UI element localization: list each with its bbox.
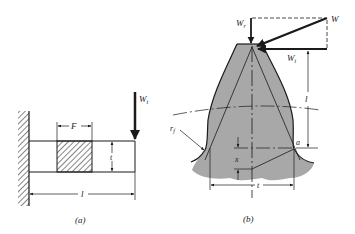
label-l-b: l [305,94,308,104]
caption-a: (a) [75,215,86,225]
rf-leader [180,130,204,150]
label-rf: rf [170,124,176,134]
label-t-b: t [257,181,260,190]
caption-b: (b) [243,214,254,224]
wall-hatch [18,111,29,206]
label-wt-b: Wt [287,53,297,64]
label-w: W [331,14,340,24]
beam-cross-section [57,141,92,172]
label-wt-a: Wt [139,94,149,105]
label-wr: Wr [236,18,247,29]
panel-b: Wr W Wt l a x t rf (b) [170,14,340,224]
label-f: F [70,121,77,131]
lewis-beam-figure: F t Wt l (a) Wr [0,0,355,234]
panel-a: F t Wt l (a) [18,92,149,225]
force-arrow-w [257,18,327,46]
label-a-point: a [296,138,300,147]
label-t-a: t [110,153,113,162]
label-l-a: l [81,189,84,199]
label-x: x [234,155,239,164]
